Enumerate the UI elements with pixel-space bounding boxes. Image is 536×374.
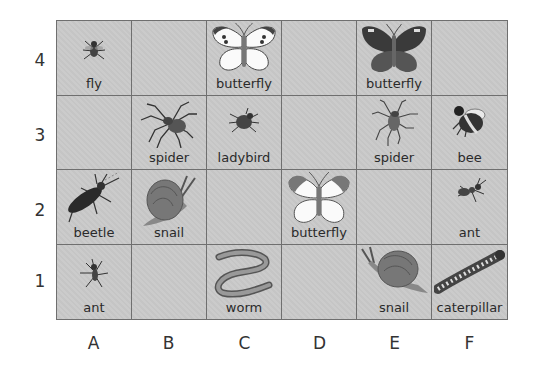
cell-label: spider [357, 150, 431, 165]
white-butterfly-icon [210, 23, 278, 75]
cell-label: ant [432, 225, 507, 240]
cell-e3: spider [357, 96, 432, 171]
spider-icon [137, 98, 201, 148]
cell-b3: spider [132, 96, 207, 171]
cell-a4: fly [57, 21, 132, 96]
worm-icon [209, 249, 279, 299]
row-label-2: 2 [30, 200, 50, 220]
cell-label: worm [207, 300, 281, 315]
snail-icon [137, 172, 201, 228]
row-label-1: 1 [30, 271, 50, 291]
cell-f1: caterpillar [432, 245, 507, 320]
cell-label: snail [357, 300, 431, 315]
col-label-f: F [432, 333, 507, 353]
ant-icon [76, 257, 112, 291]
snail-icon [358, 245, 430, 299]
cell-label: bee [432, 150, 507, 165]
cell-b2: snail [132, 170, 207, 245]
cell-a1: ant [57, 245, 132, 320]
cell-a2: beetle [57, 170, 132, 245]
orange-tip-butterfly-icon [285, 172, 353, 226]
row-label-4: 4 [30, 50, 50, 70]
row-label-3: 3 [30, 125, 50, 145]
cell-f2: ant [432, 170, 507, 245]
cell-c4: butterfly [207, 21, 282, 96]
cell-f4 [432, 21, 507, 96]
caterpillar-icon [434, 249, 506, 295]
col-label-a: A [56, 333, 131, 353]
cell-label: butterfly [282, 225, 356, 240]
cell-c3: ladybird [207, 96, 282, 171]
fly-icon [79, 35, 109, 65]
cell-e2 [357, 170, 432, 245]
cell-label: fly [57, 76, 131, 91]
col-label-d: D [282, 333, 357, 353]
coordinate-grid: fly butterfly butterfly [56, 20, 508, 320]
dark-butterfly-icon [360, 23, 428, 75]
cell-d4 [282, 21, 357, 96]
bee-icon [447, 99, 493, 145]
cell-a3 [57, 96, 132, 171]
ant-icon [450, 176, 490, 206]
cell-d3 [282, 96, 357, 171]
col-label-b: B [131, 333, 206, 353]
col-label-c: C [207, 333, 282, 353]
cell-d2: butterfly [282, 170, 357, 245]
cell-label: spider [132, 150, 206, 165]
cell-d1 [282, 245, 357, 320]
cell-b1 [132, 245, 207, 320]
cell-label: ladybird [207, 150, 281, 165]
cell-label: snail [132, 225, 206, 240]
cell-label: butterfly [207, 76, 281, 91]
cell-label: caterpillar [432, 300, 507, 315]
col-label-e: E [357, 333, 432, 353]
cell-c2 [207, 170, 282, 245]
cell-e1: snail [357, 245, 432, 320]
cell-b4 [132, 21, 207, 96]
spider-icon [366, 98, 422, 146]
ladybird-icon [226, 106, 262, 136]
cell-e4: butterfly [357, 21, 432, 96]
cell-label: beetle [57, 225, 131, 240]
cell-label: ant [57, 300, 131, 315]
cell-f3: bee [432, 96, 507, 171]
cell-c1: worm [207, 245, 282, 320]
cell-label: butterfly [357, 76, 431, 91]
beetle-icon [57, 170, 123, 226]
